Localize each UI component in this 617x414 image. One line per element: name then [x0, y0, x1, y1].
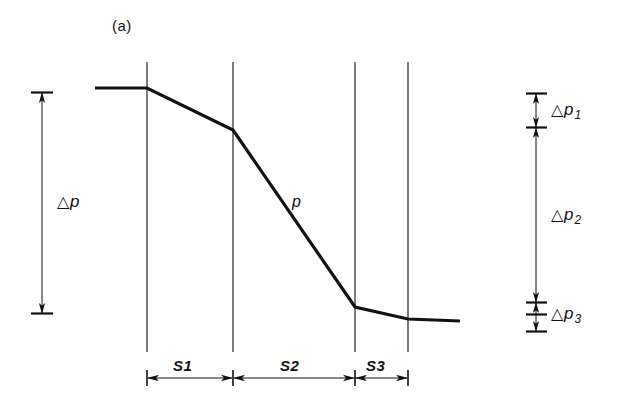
delta-symbol: △ — [551, 305, 564, 322]
total-pressure-drop-label: △p — [57, 193, 79, 210]
subscript: 1 — [573, 108, 581, 122]
delta-symbol: △ — [551, 101, 564, 118]
curve-label-p: p — [292, 194, 301, 210]
segment-label-s2: S2 — [280, 358, 299, 373]
subscript: 3 — [573, 312, 581, 326]
pressure-drop-2-label: △p2 — [551, 206, 581, 226]
delta-symbol: △ — [551, 206, 564, 223]
segment-label-s1: S1 — [173, 358, 192, 373]
subscript: 2 — [573, 213, 581, 227]
pressure-drop-1-label: △p1 — [551, 101, 581, 121]
left-dimension — [31, 93, 53, 314]
pressure-profile-curve — [95, 88, 460, 321]
pressure-symbol: p — [70, 192, 79, 211]
right-dimension — [526, 94, 547, 332]
figure-panel-a: (a) △p p △p1 △p2 △p3 S1 S2 S3 — [0, 0, 617, 414]
delta-symbol: △ — [57, 193, 70, 210]
diagram-canvas — [0, 0, 617, 414]
segment-label-s3: S3 — [366, 358, 385, 373]
pressure-drop-3-label: △p3 — [551, 305, 581, 325]
panel-label: (a) — [112, 18, 132, 33]
